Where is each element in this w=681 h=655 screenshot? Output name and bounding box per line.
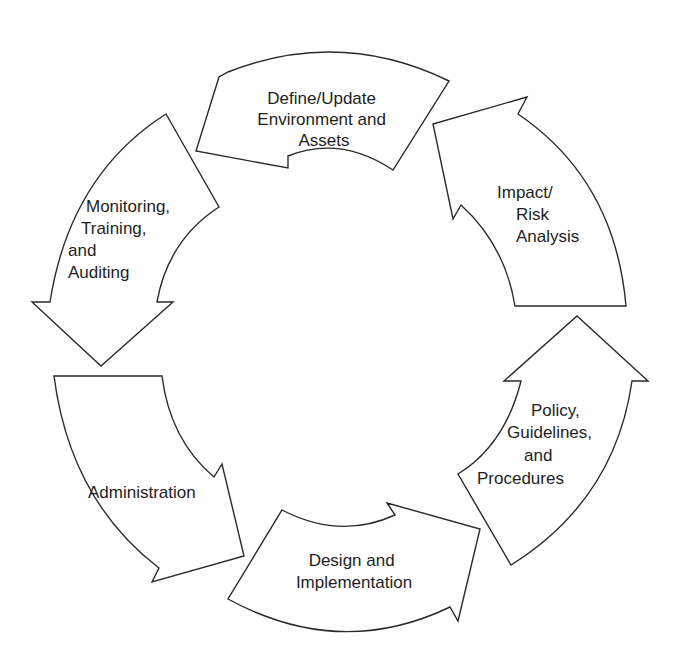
step-impact-risk-analysis: Impact/ Risk Analysis (433, 97, 626, 306)
step-define-update-environment: Define/Update Environment and Assets (196, 52, 449, 170)
security-lifecycle-diagram: Define/Update Environment and Assets Mon… (0, 0, 681, 655)
step-policy-guidelines-procedures: Policy, Guidelines, and Procedures (458, 316, 648, 565)
step-administration: Administration (54, 376, 244, 582)
step-label: Administration (88, 483, 196, 502)
curved-arrow-down-icon (32, 114, 219, 366)
step-monitoring-training-auditing: Monitoring, Training, and Auditing (32, 114, 219, 366)
step-design-implementation: Design and Implementation (228, 503, 480, 632)
curved-arrow-down-right-icon (54, 376, 244, 582)
